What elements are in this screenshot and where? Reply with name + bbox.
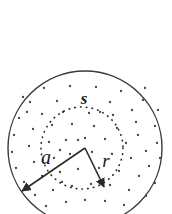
scatter-point: [112, 114, 114, 116]
scatter-point: [59, 171, 61, 173]
scatter-point: [69, 153, 71, 155]
scatter-point: [65, 139, 67, 141]
scatter-point: [77, 139, 79, 141]
scatter-point: [84, 199, 86, 201]
scatter-point: [45, 205, 47, 207]
scatter-point: [91, 151, 93, 153]
scatter-point: [131, 109, 133, 111]
scatter-point: [53, 157, 55, 159]
scatter-point: [109, 184, 111, 186]
label-r: r: [102, 150, 110, 171]
scatter-point: [142, 99, 144, 101]
scatter-point: [71, 123, 73, 125]
scatter-point: [145, 195, 147, 197]
scatter-point: [22, 96, 24, 98]
scatter-point: [65, 201, 67, 203]
scatter-point: [59, 149, 61, 151]
scatter-point: [51, 124, 53, 126]
scatter-point: [145, 150, 147, 152]
scatter-point: [130, 157, 132, 159]
scatter-point: [104, 200, 106, 202]
circle-diagram-svg: s a r: [0, 0, 172, 214]
scatter-point: [159, 157, 161, 159]
scatter-point: [137, 134, 139, 136]
scatter-point: [11, 151, 13, 153]
scatter-point: [118, 170, 120, 172]
scatter-point: [77, 168, 79, 170]
label-s: s: [80, 89, 88, 108]
scatter-point: [93, 125, 95, 127]
figure-container: s a r: [0, 0, 172, 214]
scatter-point: [41, 113, 43, 115]
scatter-point: [26, 111, 28, 113]
scatter-point: [120, 90, 122, 92]
scatter-point: [157, 109, 159, 111]
scatter-point: [116, 127, 118, 129]
scatter-point: [156, 142, 158, 144]
scatter-point: [135, 121, 137, 123]
scatter-point: [123, 204, 125, 206]
scatter-point: [29, 101, 31, 103]
scatter-point: [33, 161, 35, 163]
scatter-point: [69, 85, 71, 87]
scatter-point: [138, 175, 140, 177]
scatter-point: [23, 181, 25, 183]
scatter-point: [128, 189, 130, 191]
scatter-point: [48, 141, 50, 143]
scatter-point: [88, 112, 90, 114]
scatter-point: [154, 125, 156, 127]
scatter-point: [13, 134, 15, 136]
scatter-point: [144, 87, 146, 89]
scatter-point: [104, 138, 106, 140]
scatter-point: [154, 182, 156, 184]
scatter-point: [84, 137, 86, 139]
scatter-point: [125, 142, 127, 144]
scatter-point: [56, 100, 58, 102]
label-a: a: [41, 146, 51, 168]
scatter-point: [109, 101, 111, 103]
scatter-point: [43, 87, 45, 89]
scatter-point: [95, 86, 97, 88]
scatter-point: [15, 167, 17, 169]
scatter-point: [98, 167, 100, 169]
scatter-point: [148, 165, 150, 167]
scatter-point: [90, 183, 92, 185]
scatter-point: [111, 153, 113, 155]
scatter-point: [32, 128, 34, 130]
scatter-point: [34, 194, 36, 196]
scatter-point: [99, 111, 101, 113]
scatter-point: [28, 145, 30, 147]
scatter-point: [18, 117, 20, 119]
scatter-point: [52, 189, 54, 191]
